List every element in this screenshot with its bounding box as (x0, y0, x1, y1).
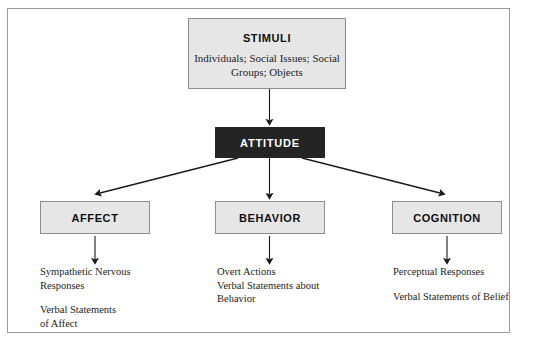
affect-response-line: Verbal Statements (40, 303, 131, 317)
cognition-response-group-1: Perceptual Responses (393, 265, 509, 279)
cognition-responses: Perceptual Responses Verbal Statements o… (393, 265, 509, 303)
behavior-response-line: Behavior (217, 292, 319, 306)
behavior-response-line: Overt Actions (217, 265, 319, 279)
attitude-box: ATTITUDE (215, 127, 325, 158)
stimuli-title: STIMULI (243, 32, 291, 44)
cognition-response-line: Perceptual Responses (393, 265, 509, 279)
stimuli-subtitle: Individuals; Social Issues; Social Group… (189, 51, 345, 79)
behavior-responses: Overt Actions Verbal Statements about Be… (217, 265, 319, 306)
affect-response-line: of Affect (40, 317, 131, 331)
cognition-box: COGNITION (392, 201, 502, 234)
affect-response-line: Responses (40, 279, 131, 293)
affect-responses: Sympathetic Nervous Responses Verbal Sta… (40, 265, 131, 330)
affect-response-group-2: Verbal Statements of Affect (40, 303, 131, 330)
stimuli-box: STIMULI Individuals; Social Issues; Soci… (188, 18, 346, 89)
behavior-response-line: Verbal Statements about (217, 279, 319, 293)
cognition-label: COGNITION (413, 212, 481, 224)
behavior-label: BEHAVIOR (239, 212, 301, 224)
affect-response-group-1: Sympathetic Nervous Responses (40, 265, 131, 292)
attitude-components-diagram: STIMULI Individuals; Social Issues; Soci… (0, 0, 535, 352)
attitude-label: ATTITUDE (240, 137, 300, 149)
cognition-response-group-2: Verbal Statements of Belief (393, 290, 509, 304)
affect-response-line: Sympathetic Nervous (40, 265, 131, 279)
stimuli-subtitle-line-1: Individuals; Social Issues; (194, 52, 310, 64)
behavior-box: BEHAVIOR (215, 201, 325, 234)
behavior-response-group-1: Overt Actions Verbal Statements about Be… (217, 265, 319, 306)
cognition-response-line: Verbal Statements of Belief (393, 290, 509, 304)
affect-box: AFFECT (40, 201, 150, 234)
affect-label: AFFECT (72, 212, 119, 224)
